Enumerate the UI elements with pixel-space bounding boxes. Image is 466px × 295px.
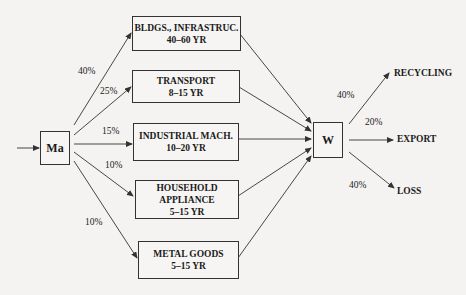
sector-lifetime: 10–20 YR [166, 142, 206, 154]
sector-name: INDUSTRIAL MACH. [139, 130, 233, 142]
sector-lifetime: 5–15 YR [171, 260, 206, 272]
sector-name-line2: APPLIANCE [159, 194, 214, 206]
share-label-transport: 25% [100, 86, 117, 96]
output-recycling: RECYCLING [394, 68, 452, 78]
output-loss: LOSS [397, 186, 421, 196]
sector-lifetime: 5–15 YR [170, 206, 205, 218]
share-label-recycling: 40% [337, 90, 354, 100]
sector-lifetime: 8–15 YR [169, 87, 204, 99]
sector-name-line1: HOUSEHOLD [156, 182, 217, 194]
share-label-metal: 10% [85, 217, 102, 227]
waste-node-w: W [313, 122, 343, 158]
sector-box-metal-goods: METAL GOODS 5–15 YR [138, 241, 239, 279]
sector-box-household: HOUSEHOLD APPLIANCE 5–15 YR [135, 180, 239, 219]
share-label-industrial: 15% [102, 126, 119, 136]
sector-name: METAL GOODS [153, 248, 223, 260]
source-node-label: Ma [46, 142, 63, 154]
sector-box-industrial: INDUSTRIAL MACH. 10–20 YR [133, 123, 239, 161]
sector-lifetime: 40–60 YR [167, 34, 207, 46]
arrow-metal-to-w [238, 156, 311, 258]
share-label-export: 20% [365, 117, 382, 127]
sector-name: BLDGS., INFRASTRUC. [135, 22, 239, 34]
share-label-bldgs: 40% [78, 66, 95, 76]
waste-node-label: W [322, 134, 334, 146]
source-node-ma: Ma [40, 131, 70, 165]
sector-box-transport: TRANSPORT 8–15 YR [132, 70, 240, 103]
share-label-household: 10% [105, 160, 122, 170]
output-export: EXPORT [397, 134, 436, 144]
share-label-loss: 40% [349, 180, 366, 190]
sector-box-buildings: BLDGS., INFRASTRUC. 40–60 YR [132, 16, 241, 51]
sector-name: TRANSPORT [157, 75, 215, 87]
